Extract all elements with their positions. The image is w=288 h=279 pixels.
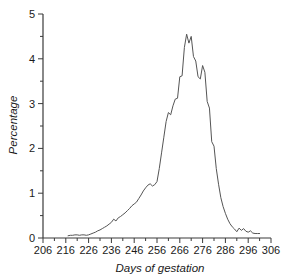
y-axis-title: Percentage [7,96,19,155]
x-axis-tick-label: 216 [57,244,75,256]
x-axis-tick-label: 226 [79,244,97,256]
x-axis-tick-label: 256 [148,244,166,256]
x-axis-tick-label: 266 [171,244,189,256]
y-axis-tick-label: 1 [29,187,35,199]
x-axis-tick-label: 246 [125,244,143,256]
y-axis-tick-label: 0 [29,232,35,244]
x-axis-tick-label: 296 [239,244,257,256]
chart-canvas: 012345 206216226236246256266276286296306… [0,0,288,279]
x-axis-tick-label: 306 [262,244,280,256]
x-axis-title: Days of gestation [116,262,205,274]
data-series-line [68,34,260,236]
x-axis-tick-label: 286 [216,244,234,256]
x-axis-tick-label: 206 [34,244,52,256]
x-axis: 206216226236246256266276286296306 [34,238,280,256]
x-axis-tick-label: 276 [193,244,211,256]
y-axis-tick-label: 2 [29,142,35,154]
x-axis-tick-label: 236 [102,244,120,256]
y-axis-tick-label: 4 [29,53,35,65]
series-line-percentage-of-births [68,34,260,236]
y-axis-tick-label: 3 [29,98,35,110]
y-axis-tick-label: 5 [29,8,35,20]
gestation-distribution-figure: 012345 206216226236246256266276286296306… [0,0,288,279]
y-axis: 012345 [29,8,43,244]
